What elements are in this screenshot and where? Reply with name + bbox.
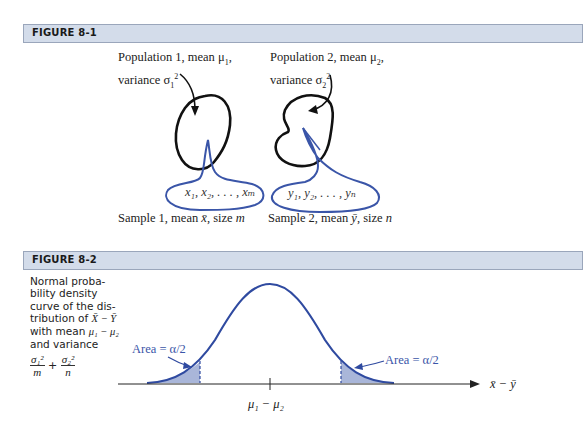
center-tick-label: μ₁ − μ₂ xyxy=(248,397,284,412)
normal-curve-chart xyxy=(0,0,588,433)
left-area-label: Area = α/2 xyxy=(132,342,186,357)
right-area-label: Area = α/2 xyxy=(385,353,439,368)
x-axis-label: x̄ − ȳ xyxy=(490,377,516,392)
